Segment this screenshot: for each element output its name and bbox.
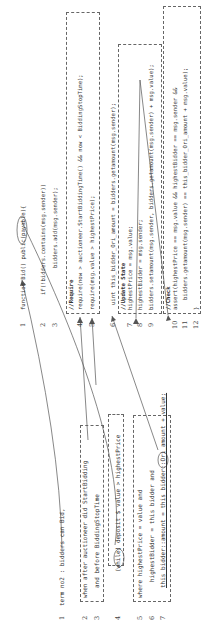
- code-line-number: 9: [147, 323, 155, 327]
- code-line-number: 12: [192, 321, 200, 329]
- code-line-number: 2: [39, 323, 47, 327]
- code-line: require(now > auctioneer.StartBiddingTim…: [76, 74, 84, 310]
- code-line-number: 5: [88, 323, 96, 327]
- code-line: bidders.setamount(msg.sender, bidders.ge…: [147, 64, 155, 310]
- spec-line-number: 1: [58, 616, 66, 620]
- spec-line: term no2 : bidders can Bid,: [58, 508, 66, 606]
- spec-line-number: 5: [136, 616, 144, 620]
- code-line: highestBidder = msg.sender;: [136, 219, 144, 310]
- code-line: highestPrice = msg.value;: [126, 226, 134, 310]
- spec-line-number: 3: [93, 616, 101, 620]
- spec-line: where highestPrice = value and: [136, 490, 144, 598]
- spec-line: this bidder::amount = this bidder::Ori_a…: [159, 393, 167, 588]
- code-line-number: 10: [171, 321, 179, 329]
- code-line-number: 8: [136, 323, 144, 327]
- code-line-number: 6: [109, 323, 117, 327]
- code-line: if(!bidders.contains(msg.sender)): [39, 184, 47, 295]
- spec-line: and before BiddingStopTime: [93, 494, 101, 588]
- code-line-number: 11: [181, 321, 189, 329]
- code-line: uint this_bidder_Ori_amount = bidders.ge…: [109, 103, 117, 305]
- spec-line-number: 4: [114, 616, 122, 620]
- code-line-number: 3: [51, 323, 59, 327]
- code-line: function Bid() public(payable){: [19, 206, 27, 310]
- spec-line-number: 6: [148, 616, 156, 620]
- code-line-number: 7: [126, 323, 134, 327]
- code-line: }: [192, 307, 200, 310]
- code-line: assert(highestPrice == msg.value && high…: [171, 88, 179, 310]
- spec-line: (while) deposit $ value > highestPrice: [114, 435, 122, 572]
- code-line: bidders.add(msg.sender);: [51, 187, 59, 268]
- code-line-number: 1: [19, 323, 27, 327]
- spec-line: highestBidder = this bidder and: [148, 470, 156, 582]
- code-line: require(msg.value > highestPrice);: [88, 195, 96, 310]
- code-line-number: 4: [76, 323, 84, 327]
- code-line: bidders.getamount(msg.sender) == this_bi…: [181, 68, 189, 300]
- spec-line-number: 2: [81, 616, 89, 620]
- code-comment: //Require: [67, 280, 75, 310]
- spec-line: when after auctioneer did StartBidding: [81, 461, 89, 598]
- spec-line-number: 7: [159, 616, 167, 620]
- rotated-figure: 1 term no2 : bidders can Bid, 2 when aft…: [0, 0, 213, 640]
